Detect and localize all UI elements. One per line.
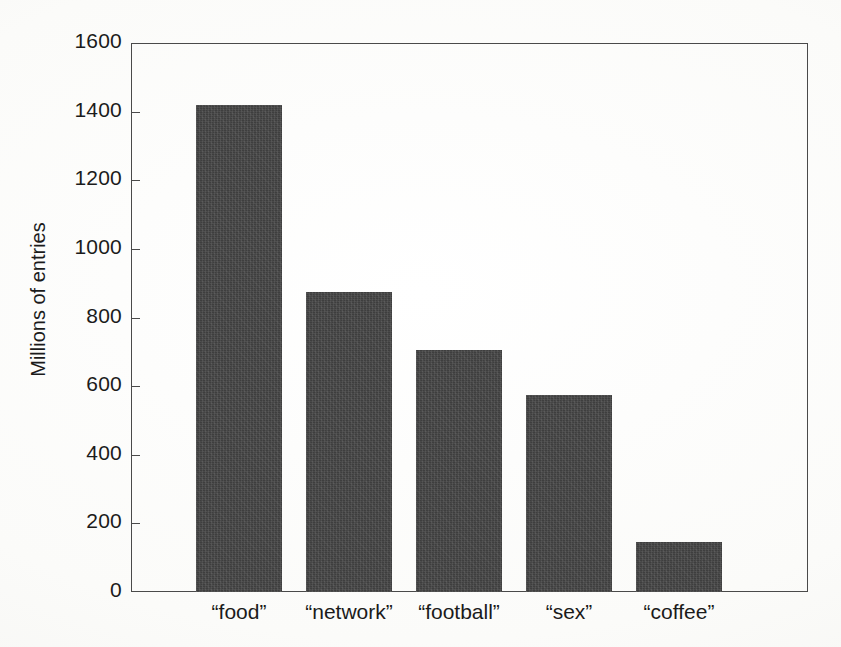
x-axis-tick-label: “coffee”	[606, 600, 752, 624]
bar	[416, 350, 502, 592]
x-axis-tick-labels: “food”“network”“football”“sex”“coffee”	[131, 600, 808, 640]
bar	[196, 105, 282, 592]
y-axis-tick-label: 1000	[12, 235, 122, 259]
y-axis-tick-label: 1200	[12, 166, 122, 190]
y-axis-tick-label: 600	[12, 372, 122, 396]
bar	[306, 292, 392, 592]
y-axis-tick-label: 800	[12, 304, 122, 328]
bar	[636, 542, 722, 592]
y-axis-tick-label: 400	[12, 441, 122, 465]
y-axis-tick-label: 1400	[12, 98, 122, 122]
chart-page: Millions of entries 02004006008001000120…	[0, 0, 841, 647]
bar-series	[131, 43, 808, 592]
y-axis-tick-labels: 02004006008001000120014001600	[10, 0, 122, 647]
y-axis-tick-label: 0	[12, 578, 122, 602]
y-axis-tick-label: 1600	[12, 29, 122, 53]
y-axis-tick-label: 200	[12, 509, 122, 533]
bar	[526, 395, 612, 592]
